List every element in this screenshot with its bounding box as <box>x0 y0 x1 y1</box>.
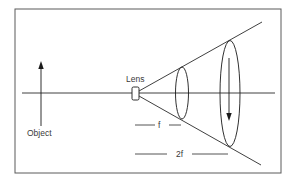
lens-icon <box>132 87 139 100</box>
cone-upper-ray <box>139 22 262 91</box>
object-arrow-icon <box>38 61 43 126</box>
lens-label: Lens <box>126 74 144 84</box>
2f-label: 2f <box>176 149 184 159</box>
dimension-2f: 2f <box>135 149 228 159</box>
dimension-f: f <box>135 120 181 130</box>
image-arrow-icon <box>226 58 231 121</box>
image-plane-2f <box>220 41 240 147</box>
lens-diagram: Object Lens f 2f <box>0 0 297 177</box>
object-label: Object <box>27 128 52 138</box>
f-label: f <box>158 120 161 130</box>
cone-lower-ray <box>139 96 261 165</box>
